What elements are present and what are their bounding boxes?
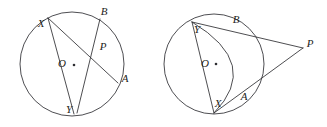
right-label-O: O <box>201 57 209 69</box>
right-label-P: P <box>306 37 314 49</box>
left-label-X: X <box>37 17 46 29</box>
geometry-figure: X B P A Y O Y B P A X O <box>0 0 327 127</box>
left-label-P: P <box>99 40 107 52</box>
right-secant-y-b-p <box>192 22 303 48</box>
left-label-O: O <box>58 57 66 69</box>
left-panel: X B P A Y O <box>20 5 129 116</box>
right-label-B: B <box>233 13 240 25</box>
left-center-dot <box>73 64 76 67</box>
left-chord-b-y <box>77 19 100 113</box>
right-inner-arc-b-a <box>192 22 234 113</box>
geometry-svg: X B P A Y O Y B P A X O <box>0 0 327 127</box>
left-label-A: A <box>121 72 129 84</box>
left-label-B: B <box>101 5 108 17</box>
left-circle <box>20 12 124 116</box>
right-panel: Y B P A X O <box>164 13 314 114</box>
left-chord-x-a <box>48 18 118 83</box>
right-secant-x-a-p <box>214 48 303 113</box>
right-label-X: X <box>214 97 223 109</box>
right-label-A: A <box>240 90 248 102</box>
right-center-dot <box>215 63 218 66</box>
